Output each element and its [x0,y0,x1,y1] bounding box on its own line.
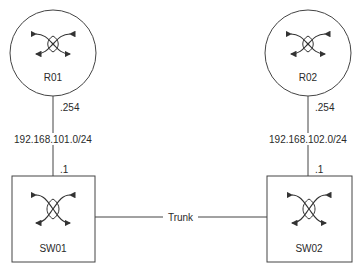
r02-interface-ip: .254 [315,102,335,113]
trunk-label: Trunk [168,212,194,223]
router-r01[interactable]: R01 [10,10,96,96]
switch-sw01[interactable]: SW01 [12,176,95,262]
router-r02[interactable]: R02 [265,10,351,96]
router-label: R02 [299,72,318,83]
sw01-interface-ip: .1 [60,164,69,175]
network-diagram: R01 R02 .254 192.168.101.0/24 .1 .254 19… [0,0,360,272]
switch-sw02[interactable]: SW02 [267,176,352,262]
router-label: R01 [44,72,63,83]
sw02-interface-ip: .1 [315,164,324,175]
r01-interface-ip: .254 [60,102,80,113]
subnet-label-102: 192.168.102.0/24 [269,134,347,145]
switch-label: SW02 [295,243,323,254]
switch-label: SW01 [39,243,67,254]
subnet-label-101: 192.168.101.0/24 [14,134,92,145]
